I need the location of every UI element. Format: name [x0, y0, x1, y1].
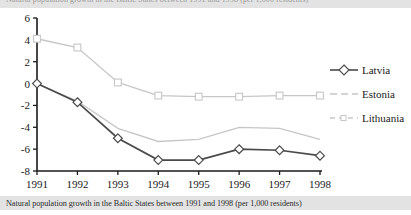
- top-cropped-band: Natural population growth in the Baltic …: [0, 0, 411, 8]
- legend-marker-lithuania: [330, 111, 358, 125]
- data-point-lithuania: [195, 93, 202, 100]
- legend-item-estonia: Estonia: [330, 82, 410, 106]
- legend-label-lithuania: Lithuania: [362, 112, 404, 124]
- data-point-lithuania: [155, 92, 162, 99]
- x-tick-label: 1994: [147, 178, 170, 190]
- data-point-latvia: [316, 151, 325, 160]
- caption-text: Natural population growth in the Baltic …: [0, 199, 302, 208]
- x-tick-label: 1993: [107, 178, 130, 190]
- y-tick-label: -2: [21, 99, 30, 111]
- data-point-lithuania: [74, 44, 81, 51]
- x-tick-label: 1992: [66, 178, 88, 190]
- y-tick-label: 4: [25, 34, 31, 46]
- data-point-lithuania: [114, 79, 121, 86]
- data-point-lithuania: [34, 35, 41, 42]
- data-point-latvia: [275, 146, 284, 155]
- chart-legend: Latvia Estonia Lithuania: [330, 58, 410, 130]
- x-tick-label: 1997: [269, 178, 292, 190]
- x-tick-label: 1996: [228, 178, 251, 190]
- x-tick-label: 1991: [26, 178, 48, 190]
- y-tick-label: -4: [21, 121, 31, 133]
- legend-marker-latvia: [330, 63, 358, 77]
- data-point-lithuania: [276, 92, 283, 99]
- data-point-latvia: [235, 145, 244, 154]
- figure-root: Natural population growth in the Baltic …: [0, 0, 411, 215]
- y-tick-label: 2: [25, 56, 31, 68]
- x-tick-label: 1995: [188, 178, 211, 190]
- data-point-latvia: [194, 156, 203, 165]
- data-point-lithuania: [236, 93, 243, 100]
- legend-label-estonia: Estonia: [362, 88, 395, 100]
- x-tick-label: 1998: [309, 178, 332, 190]
- y-tick-label: -6: [21, 143, 31, 155]
- top-band-text: Natural population growth in the Baltic …: [6, 0, 308, 4]
- y-tick-label: -8: [21, 165, 31, 177]
- data-point-lithuania: [317, 92, 324, 99]
- figure-caption: Natural population growth in the Baltic …: [0, 196, 411, 210]
- legend-marker-estonia: [330, 87, 358, 101]
- legend-item-latvia: Latvia: [330, 58, 410, 82]
- data-point-latvia: [154, 156, 163, 165]
- legend-item-lithuania: Lithuania: [330, 106, 410, 130]
- data-point-latvia: [33, 79, 42, 88]
- legend-label-latvia: Latvia: [362, 64, 390, 76]
- y-tick-label: 0: [25, 78, 31, 90]
- y-tick-label: 6: [25, 12, 31, 24]
